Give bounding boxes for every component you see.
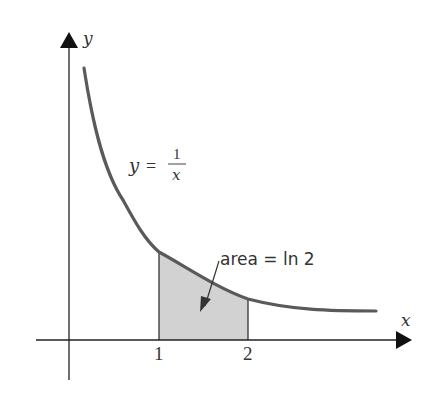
x-axis-arrow-icon: [396, 331, 412, 349]
x-axis-label: x: [401, 310, 411, 330]
area-label: area = ln 2: [220, 249, 315, 269]
tick-label-2: 2: [243, 343, 253, 364]
curve-label-numerator: 1: [173, 146, 181, 162]
curve-label-lhs: y: [128, 155, 140, 176]
figure-canvas: y x 1 2 y = 1 x area = ln 2: [0, 0, 440, 395]
y-axis-arrow-icon: [60, 32, 78, 48]
curve-y-equals-1-over-x: [84, 68, 376, 311]
curve-label-denominator: x: [172, 166, 181, 184]
y-axis-label: y: [82, 28, 93, 48]
curve-label-eq: =: [146, 156, 156, 176]
tick-label-1: 1: [154, 343, 164, 364]
